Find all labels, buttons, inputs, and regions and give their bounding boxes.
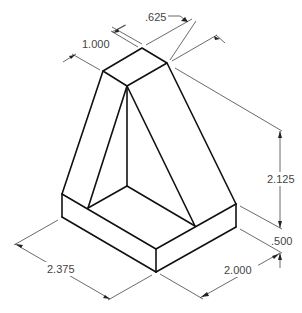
dim-label-height: 2.125 [267,173,295,185]
part-geometry [62,48,236,272]
dim-label-top-width: .625 [145,11,166,23]
dimension-500: .500 [240,229,292,268]
dim-label-base-width: 2.000 [224,264,252,276]
dim-label-base-depth: 2.375 [47,263,75,275]
base-top-left [62,194,156,249]
isometric-drawing: .625 1.000 2.125 .500 2.000 [0,0,302,313]
dimension-625: .625 [112,11,196,60]
dim-label-base-thickness: .500 [271,235,292,247]
inner-right-slope [127,86,195,226]
top-face [103,48,167,86]
dim-label-top-depth: 1.000 [82,38,110,50]
right-outer-edge [167,63,236,204]
left-outer-edge [62,71,103,194]
dimension-1000: 1.000 [63,25,138,70]
dimension-2375: 2.375 [14,220,152,300]
